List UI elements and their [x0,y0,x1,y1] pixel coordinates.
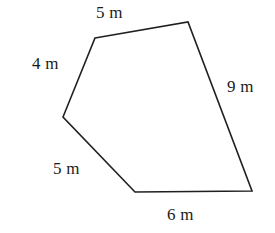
side-label-right: 9 m [227,78,254,95]
side-label-lower-left: 5 m [53,160,80,177]
side-label-bottom: 6 m [167,206,194,223]
pentagon-outline [63,22,252,192]
side-label-upper-left: 4 m [32,55,59,72]
polygon-figure: 5 m 4 m 9 m 5 m 6 m [0,0,275,233]
side-label-top: 5 m [96,4,123,21]
polygon-shape [0,0,275,233]
